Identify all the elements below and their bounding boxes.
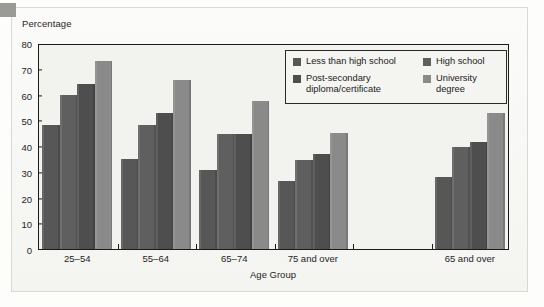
bar-face xyxy=(435,177,453,249)
bar-highlight xyxy=(77,84,79,249)
x-axis-tick-label: 65 and over xyxy=(445,253,495,264)
y-axis-tick-mark xyxy=(38,198,42,199)
bar-face xyxy=(42,125,60,249)
screenshot-root: Percentage 01020304050607080 25–5455–646… xyxy=(0,0,544,307)
bar xyxy=(217,134,235,249)
bar-highlight xyxy=(199,170,201,249)
bar xyxy=(138,125,156,249)
bar-shadow xyxy=(189,80,191,249)
legend-label: University degree xyxy=(436,73,503,96)
x-axis-separator-tick xyxy=(118,244,119,249)
bar-face xyxy=(278,181,296,249)
y-axis-tick-mark xyxy=(38,172,42,173)
legend-label: Less than high school xyxy=(306,56,396,68)
bar-face xyxy=(138,125,156,249)
legend-swatch-icon xyxy=(423,58,431,66)
bar xyxy=(121,159,139,249)
x-axis-tick-label: 65–74 xyxy=(221,253,247,264)
y-axis-tick-label: 20 xyxy=(14,193,32,204)
bar-face xyxy=(199,170,217,249)
x-axis-title: Age Group xyxy=(250,269,296,280)
y-axis-title: Percentage xyxy=(22,18,72,29)
bar xyxy=(330,133,348,249)
y-axis-tick-label: 40 xyxy=(14,142,32,153)
bar xyxy=(173,80,191,249)
y-axis-tick-label: 10 xyxy=(14,219,32,230)
bar xyxy=(452,147,470,249)
legend-column-left: Less than high schoolPost-secondary dipl… xyxy=(293,56,421,101)
bar-face xyxy=(330,133,348,249)
bar-shadow xyxy=(346,133,348,249)
bar xyxy=(470,142,488,249)
bar-highlight xyxy=(252,101,254,249)
bar xyxy=(313,154,331,249)
bar xyxy=(252,101,270,249)
bar-highlight xyxy=(313,154,315,249)
bar-face xyxy=(234,134,252,249)
y-axis-tick-mark xyxy=(38,69,42,70)
bar-highlight xyxy=(60,95,62,250)
legend-entry: Less than high school xyxy=(293,56,421,68)
bar-face xyxy=(156,113,174,249)
y-axis-tick-label: 50 xyxy=(14,116,32,127)
page-corner-marker xyxy=(0,3,16,17)
bar-highlight xyxy=(487,113,489,249)
x-axis-separator-tick xyxy=(353,244,354,249)
bar-face xyxy=(77,84,95,249)
x-axis-tick-label: 25–54 xyxy=(64,253,90,264)
x-axis-tick-label: 55–64 xyxy=(143,253,169,264)
x-axis-separator-tick xyxy=(196,244,197,249)
legend-swatch-icon xyxy=(293,75,301,83)
bar-shadow xyxy=(268,101,270,249)
legend-swatch-icon xyxy=(423,75,431,83)
bar xyxy=(435,177,453,249)
bar-highlight xyxy=(138,125,140,249)
y-axis-tick-label: 0 xyxy=(14,245,32,256)
bar-shadow xyxy=(503,113,505,249)
bar-face xyxy=(121,159,139,249)
bar xyxy=(95,61,113,249)
legend-label: Post-secondary diploma/certificate xyxy=(306,73,381,96)
bar-face xyxy=(95,61,113,249)
bar xyxy=(234,134,252,249)
bar-highlight xyxy=(295,160,297,249)
bar-face xyxy=(470,142,488,249)
bar-highlight xyxy=(452,147,454,249)
bar-face xyxy=(487,113,505,249)
legend-swatch-icon xyxy=(293,58,301,66)
bar xyxy=(278,181,296,249)
y-axis-tick-mark xyxy=(38,224,42,225)
bar-face xyxy=(252,101,270,249)
bar xyxy=(487,113,505,249)
bar-highlight xyxy=(156,113,158,249)
bar xyxy=(42,125,60,249)
bar xyxy=(295,160,313,249)
bar xyxy=(199,170,217,249)
legend-entry: High school xyxy=(423,56,503,68)
legend-entry: University degree xyxy=(423,73,503,96)
bar xyxy=(60,95,78,250)
bar-highlight xyxy=(173,80,175,249)
legend: Less than high schoolPost-secondary dipl… xyxy=(285,50,507,104)
bar-highlight xyxy=(217,134,219,249)
y-axis-tick-mark xyxy=(38,121,42,122)
bar-highlight xyxy=(42,125,44,249)
bar-face xyxy=(217,134,235,249)
bar-highlight xyxy=(435,177,437,249)
x-axis-separator-tick xyxy=(275,244,276,249)
bar-face xyxy=(173,80,191,249)
bar-highlight xyxy=(234,134,236,249)
y-axis-tick-label: 80 xyxy=(14,39,32,50)
bar-highlight xyxy=(470,142,472,249)
y-axis-tick-label: 60 xyxy=(14,90,32,101)
y-axis-tick-mark xyxy=(38,146,42,147)
bar xyxy=(77,84,95,249)
bar-highlight xyxy=(278,181,280,249)
legend-entry: Post-secondary diploma/certificate xyxy=(293,73,421,96)
legend-label: High school xyxy=(436,56,485,68)
bar xyxy=(156,113,174,249)
y-axis-tick-label: 70 xyxy=(14,64,32,75)
bar-highlight xyxy=(95,61,97,249)
x-axis-separator-tick xyxy=(432,244,433,249)
bar-face xyxy=(313,154,331,249)
